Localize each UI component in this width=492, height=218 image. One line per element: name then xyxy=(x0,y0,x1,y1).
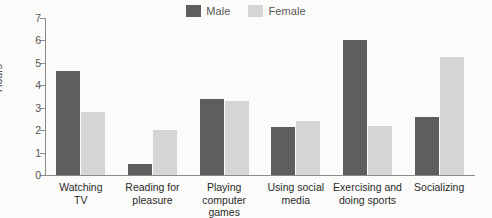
y-tick-label: 1 xyxy=(35,147,41,159)
bar-group xyxy=(128,18,177,175)
chart-figure: MaleFemale 76543210 Hours Watching TVRea… xyxy=(0,0,492,218)
bar-group xyxy=(271,18,320,175)
bar-group xyxy=(200,18,249,175)
y-tick-label: 6 xyxy=(35,34,41,46)
bar-female[interactable] xyxy=(440,57,464,175)
y-tick-label: 0 xyxy=(35,169,41,181)
bar-female[interactable] xyxy=(296,121,320,175)
legend-swatch-male xyxy=(186,5,201,17)
x-axis-category-label: Exercising and doing sports xyxy=(332,181,404,206)
x-axis-line xyxy=(45,175,475,176)
y-tick-label: 4 xyxy=(35,79,41,91)
bar-female[interactable] xyxy=(153,130,177,175)
plot-area: 76543210 xyxy=(45,18,475,175)
x-axis-category-label: Playing computer games xyxy=(188,181,260,218)
y-tick-label: 3 xyxy=(35,102,41,114)
x-axis-category-label: Socializing xyxy=(403,181,475,194)
bar-male[interactable] xyxy=(128,164,152,175)
x-axis-category-label: Watching TV xyxy=(45,181,117,206)
legend-entry-male[interactable]: Male xyxy=(186,5,230,17)
legend-entry-female[interactable]: Female xyxy=(248,5,305,17)
bar-male[interactable] xyxy=(56,71,80,175)
legend-label: Male xyxy=(206,5,230,17)
bar-male[interactable] xyxy=(415,117,439,175)
legend-swatch-female xyxy=(248,5,263,17)
bar-female[interactable] xyxy=(81,112,105,175)
bar-group xyxy=(343,18,392,175)
y-tick-label: 2 xyxy=(35,124,41,136)
legend-label: Female xyxy=(268,5,305,17)
bar-male[interactable] xyxy=(343,40,367,175)
y-axis-line xyxy=(45,18,46,175)
y-axis-title: Hours xyxy=(0,64,4,92)
bar-female[interactable] xyxy=(368,126,392,175)
bar-female[interactable] xyxy=(225,101,249,175)
chart-legend: MaleFemale xyxy=(0,5,492,17)
bar-group xyxy=(415,18,464,175)
bar-male[interactable] xyxy=(200,99,224,175)
bar-group xyxy=(56,18,105,175)
y-tick-label: 5 xyxy=(35,57,41,69)
x-axis-category-label: Using social media xyxy=(260,181,332,206)
y-tick-label: 7 xyxy=(35,12,41,24)
x-axis-category-label: Reading for pleasure xyxy=(117,181,189,206)
bar-male[interactable] xyxy=(271,127,295,175)
